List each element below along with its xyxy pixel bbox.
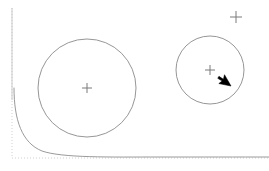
- large-circle-center-cross-icon[interactable]: [82, 83, 92, 93]
- small-circle-center-cross-icon[interactable]: [205, 65, 215, 75]
- scene-svg: [0, 0, 269, 171]
- mouse-pointer-icon: [216, 74, 231, 91]
- drawing-canvas[interactable]: [0, 0, 269, 171]
- free-cross-icon[interactable]: [230, 11, 242, 23]
